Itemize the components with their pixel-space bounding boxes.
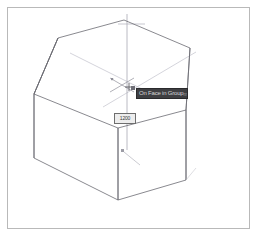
- hidden-edges: [186, 168, 196, 180]
- snap-crosshair: [110, 78, 134, 92]
- front-left-face-edges: [34, 94, 118, 200]
- cad-application-window: On Face in Group mm 1200 3D Modeling Vie…: [0, 0, 258, 243]
- dimension-input[interactable]: 1200: [114, 113, 136, 124]
- dimension-input-value: 1200: [120, 115, 130, 122]
- interior-edge-left: [34, 38, 58, 94]
- snap-tooltip-text: On Face in Group: [139, 89, 184, 98]
- hexagonal-prism-wireframe: [34, 20, 190, 200]
- snap-tooltip-unit: mm: [184, 91, 189, 97]
- snap-tooltip: On Face in Group mm: [136, 88, 188, 99]
- move-handle-axis: [121, 149, 140, 165]
